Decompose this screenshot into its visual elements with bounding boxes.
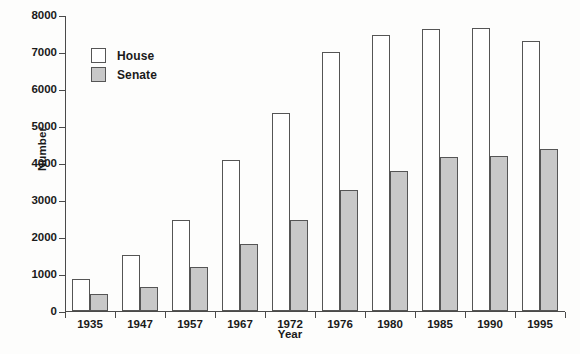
bar-group xyxy=(372,15,408,311)
y-axis-tick-mark xyxy=(59,164,65,165)
y-axis-tick-label: 3000 xyxy=(11,195,57,207)
bar-senate-1985 xyxy=(440,157,458,311)
bar-group xyxy=(222,15,258,311)
bar-house-1935 xyxy=(72,279,90,311)
bar-house-1967 xyxy=(222,160,240,311)
bar-group xyxy=(322,15,358,311)
legend-item-senate: Senate xyxy=(91,65,157,84)
y-axis-tick-mark xyxy=(59,53,65,54)
bar-chart: Number 010002000300040005000600070008000… xyxy=(0,0,580,354)
y-axis-tick-mark xyxy=(59,90,65,91)
bar-senate-1976 xyxy=(340,190,358,310)
y-axis-tick-label: 4000 xyxy=(11,158,57,170)
bar-house-1947 xyxy=(122,255,140,311)
bar-senate-1935 xyxy=(90,294,108,311)
bar-senate-1947 xyxy=(140,287,158,311)
y-axis-tick-label: 2000 xyxy=(11,232,57,244)
bar-house-1980 xyxy=(372,35,390,310)
legend-swatch-senate-icon xyxy=(91,67,106,82)
bar-senate-1967 xyxy=(240,244,258,310)
y-axis-tick-label: 1000 xyxy=(11,269,57,281)
y-axis-line xyxy=(65,16,66,312)
y-axis-tick-mark xyxy=(59,16,65,17)
y-axis-tick-label: 7000 xyxy=(11,47,57,59)
bar-senate-1972 xyxy=(290,220,308,310)
y-axis-tick-mark xyxy=(59,238,65,239)
y-axis-tick-label: 6000 xyxy=(11,84,57,96)
bar-house-1985 xyxy=(422,29,440,310)
y-axis-tick-mark xyxy=(59,127,65,128)
chart-legend: House Senate xyxy=(91,46,157,84)
y-axis-tick-label: 5000 xyxy=(11,121,57,133)
y-axis-tick-mark xyxy=(59,201,65,202)
legend-item-house: House xyxy=(91,46,157,65)
legend-swatch-house-icon xyxy=(91,48,106,63)
bar-house-1957 xyxy=(172,220,190,311)
x-axis-label: Year xyxy=(0,328,580,340)
legend-label-senate: Senate xyxy=(117,68,157,82)
bar-group xyxy=(422,15,458,311)
bar-house-1972 xyxy=(272,113,290,311)
y-axis-tick-label: 0 xyxy=(11,306,57,318)
bar-house-1995 xyxy=(522,41,540,310)
bar-group xyxy=(172,15,208,311)
bar-senate-1980 xyxy=(390,171,408,311)
bar-group xyxy=(522,15,558,311)
bar-group xyxy=(272,15,308,311)
bar-senate-1990 xyxy=(490,156,508,311)
bar-senate-1957 xyxy=(190,267,208,310)
y-axis-tick-mark xyxy=(59,275,65,276)
legend-label-house: House xyxy=(117,49,154,63)
bar-house-1976 xyxy=(322,52,340,311)
bar-senate-1995 xyxy=(540,149,558,310)
x-axis-tick-mark xyxy=(565,312,566,318)
bar-house-1990 xyxy=(472,28,490,311)
y-axis-tick-label: 8000 xyxy=(11,10,57,22)
bar-group xyxy=(472,15,508,311)
